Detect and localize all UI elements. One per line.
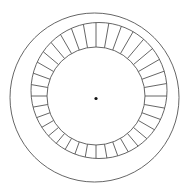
segment-divider <box>113 142 118 156</box>
segmented-ring-diagram <box>0 0 189 194</box>
segment-divider <box>33 105 48 108</box>
segment-divider <box>31 85 47 88</box>
segment-divider <box>134 128 147 139</box>
segment-divider <box>83 24 87 47</box>
segment-divider <box>144 105 164 109</box>
ring-segment-dividers <box>31 23 167 159</box>
segment-divider <box>37 62 53 71</box>
center-dot <box>94 97 97 100</box>
segment-divider <box>33 73 50 79</box>
segment-divider <box>60 34 71 53</box>
outer-circle <box>10 13 179 182</box>
segment-divider <box>142 113 160 120</box>
segment-divider <box>144 84 166 88</box>
segment-divider <box>134 49 153 65</box>
segment-divider <box>42 121 54 128</box>
segment-divider <box>48 128 58 136</box>
segment-divider <box>142 71 164 79</box>
segment-divider <box>71 28 79 50</box>
segment-divider <box>51 42 65 58</box>
segment-divider <box>138 59 159 71</box>
segment-divider <box>128 134 139 147</box>
segment-divider <box>85 144 87 157</box>
segment-divider <box>56 134 64 144</box>
segment-divider <box>105 23 109 48</box>
segment-divider <box>138 121 154 130</box>
segment-divider <box>37 113 50 118</box>
segment-divider <box>75 142 79 154</box>
segment-divider <box>105 144 107 158</box>
segment-divider <box>128 39 144 58</box>
segment-divider <box>121 32 134 54</box>
segment-divider <box>121 138 129 151</box>
ring-inner-edge <box>47 47 145 145</box>
segment-divider <box>43 52 58 65</box>
segment-divider <box>65 138 71 149</box>
segment-divider <box>113 26 122 50</box>
